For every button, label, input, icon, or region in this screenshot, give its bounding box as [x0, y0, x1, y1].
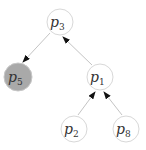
tree-diagram: p3 p5 p1 p2 p8 — [0, 0, 146, 150]
node-p5-label: p — [8, 69, 17, 85]
node-p1-label: p — [90, 69, 99, 85]
node-p5-subscript: 5 — [17, 77, 23, 87]
edge-p3-p5 — [23, 33, 50, 62]
node-p8: p8 — [113, 116, 139, 142]
node-p2-subscript: 2 — [73, 129, 79, 139]
node-p1: p1 — [87, 64, 113, 90]
node-p3: p3 — [47, 9, 73, 35]
node-p1-subscript: 1 — [99, 77, 105, 87]
node-p2: p2 — [61, 116, 87, 142]
edge-p1-p3 — [63, 37, 92, 65]
edge-p8-p1 — [104, 92, 122, 115]
node-p8-label: p — [116, 121, 125, 137]
node-p5: p5 — [4, 63, 32, 91]
edge-p2-p1 — [78, 92, 95, 115]
node-p3-label: p — [50, 14, 59, 30]
node-p2-label: p — [64, 121, 73, 137]
node-p3-subscript: 3 — [59, 22, 65, 32]
node-p8-subscript: 8 — [125, 129, 131, 139]
